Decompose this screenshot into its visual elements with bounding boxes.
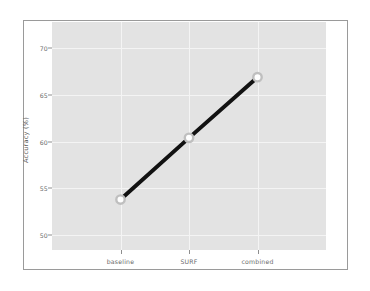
y-axis-tick-label: 50 bbox=[40, 232, 48, 239]
x-axis-tick-mark bbox=[121, 250, 122, 254]
gridline-vertical bbox=[189, 22, 190, 250]
y-axis-tick-mark bbox=[48, 48, 52, 49]
x-axis-tick-label: baseline bbox=[107, 258, 135, 265]
y-axis-tick-mark bbox=[48, 235, 52, 236]
y-axis-tick-mark bbox=[48, 141, 52, 142]
gridline-vertical bbox=[121, 22, 122, 250]
y-axis-tick-label: 65 bbox=[40, 91, 48, 98]
y-axis-tick-mark bbox=[48, 94, 52, 95]
y-axis-tick-label: 55 bbox=[40, 185, 48, 192]
y-axis-tick-label: 60 bbox=[40, 138, 48, 145]
y-axis-tick-mark bbox=[48, 188, 52, 189]
plot-area bbox=[52, 22, 326, 250]
x-axis-tick-label: combined bbox=[241, 258, 273, 265]
x-axis-tick-mark bbox=[258, 250, 259, 254]
y-axis-tick-labels: 5055606570 bbox=[30, 0, 48, 291]
y-axis-title: Accuracy (%) bbox=[22, 100, 30, 180]
x-axis-tick-mark bbox=[189, 250, 190, 254]
gridline-vertical bbox=[258, 22, 259, 250]
y-axis-tick-label: 70 bbox=[40, 45, 48, 52]
x-axis-tick-label: SURF bbox=[180, 258, 197, 265]
